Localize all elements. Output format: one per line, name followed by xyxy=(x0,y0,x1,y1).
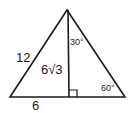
hypotenuse-label: 12 xyxy=(16,50,30,65)
altitude-line xyxy=(68,10,69,97)
apex-angle-label: 30° xyxy=(70,37,84,47)
base-angle-label: 60° xyxy=(101,83,115,93)
triangle-diagram: 12 6√3 6 30° 60° xyxy=(0,0,131,113)
right-angle-marker xyxy=(69,90,77,97)
base-segment-label: 6 xyxy=(32,98,39,113)
altitude-label: 6√3 xyxy=(41,62,63,77)
